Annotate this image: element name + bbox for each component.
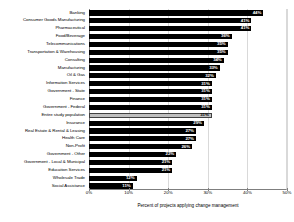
bar-row: 35% [89,42,286,47]
bar-value-label: 31% [201,82,212,86]
bar-row: 22% [89,152,286,157]
category-label: Pharmaceutical [55,26,85,30]
bar-value-label: 27% [185,137,196,141]
bar-value-label: 33% [209,66,220,70]
bar[interactable]: 33% [89,65,220,70]
x-tick-label: 30% [203,191,212,195]
category-label: Social Assistance [52,184,85,188]
category-label: Government - Local & Municipal [24,160,85,164]
gridline [287,9,288,189]
bar-row: 27% [89,128,286,133]
bar[interactable]: 32% [89,73,216,78]
bar-value-label: 34% [213,58,224,62]
bar-value-label: 12% [126,176,137,180]
bar-value-label: 31% [201,97,212,101]
bar-value-label: 35% [217,50,228,54]
bar[interactable]: 27% [89,128,196,133]
bar[interactable]: 35% [89,50,228,55]
bar-row: 36% [89,34,286,39]
category-label: Government - State [48,89,85,93]
category-label: Information Services [46,81,85,85]
bar-value-label: 11% [122,184,132,188]
bar[interactable]: 35% [89,42,228,47]
bar-row: 33% [89,65,286,70]
category-label: Insurance [66,121,85,125]
bar[interactable]: 29% [89,121,204,126]
category-label: Non-Profit [66,144,85,148]
bar[interactable]: 31% [89,89,212,94]
bar[interactable]: 41% [89,18,251,23]
category-label: Transportation & Warehousing [27,50,85,54]
bar[interactable]: 26% [89,144,192,149]
bar-highlight[interactable]: 31% [89,113,212,118]
bar-value-label: 31% [201,105,212,109]
bar[interactable]: 12% [89,176,137,181]
bar[interactable]: 34% [89,58,224,63]
x-tick-label: 40% [243,191,252,195]
category-label: Banking [69,11,85,15]
bar-chart: BankingConsumer Goods ManufacturingPharm… [0,0,294,222]
category-label: Finance [70,97,85,101]
category-label: Education Services [48,168,85,172]
bar-row: 32% [89,73,286,78]
category-label: Consulting [65,58,85,62]
x-tick-label: 0% [86,191,92,195]
category-label: Government - Other [47,152,85,156]
bar-value-label: 21% [162,168,173,172]
bar[interactable]: 27% [89,136,196,141]
bar-value-label: 27% [185,129,196,133]
x-axis-title: Percent of projects applying change mana… [89,204,287,209]
bar-series: 44%41%41%36%35%35%34%33%32%31%31%31%31%3… [89,9,286,189]
category-label: Food/Beverage [56,34,85,38]
bar-row: 44% [89,10,286,15]
category-label: Real Estate & Rental & Leasing [25,129,85,133]
bar-value-label: 35% [217,42,228,46]
bar[interactable]: 36% [89,34,232,39]
bar-row: 35% [89,50,286,55]
bar-value-label: 41% [241,19,252,23]
category-label: Government - Federal [43,105,85,109]
bar-row: 34% [89,58,286,63]
bar-row: 21% [89,168,286,173]
bar[interactable]: 31% [89,97,212,102]
category-label: Consumer Goods Manufacturing [23,18,85,22]
bar-value-label: 31% [200,113,211,117]
bar-value-label: 22% [166,152,177,156]
bar-value-label: 29% [193,121,204,125]
bar-value-label: 26% [181,145,192,149]
plot-area: 44%41%41%36%35%35%34%33%32%31%31%31%31%3… [89,9,287,190]
bar-row: 31% [89,105,286,110]
bar[interactable]: 22% [89,152,176,157]
x-tick-label: 20% [164,191,173,195]
category-label: Oil & Gas [67,73,85,77]
x-tick-label: 10% [124,191,133,195]
category-label: Telecommunications [46,42,85,46]
bar-row: 31% [89,113,286,118]
bar-value-label: 36% [221,34,232,38]
x-axis-ticks: 0%10%20%30%40%50% [89,191,287,200]
bar-value-label: 41% [241,26,252,30]
bar-row: 11% [89,183,286,188]
bar-value-label: 32% [205,74,216,78]
category-label: Health Care [62,136,85,140]
bar[interactable]: 44% [89,10,263,15]
bar-row: 29% [89,121,286,126]
category-label: Manufacturing [58,66,85,70]
x-tick-label: 50% [283,191,292,195]
bar[interactable]: 41% [89,26,251,31]
bar[interactable]: 21% [89,168,172,173]
bar-value-label: 21% [162,160,173,164]
bar-row: 12% [89,176,286,181]
bar-value-label: 31% [201,89,212,93]
bar[interactable]: 21% [89,160,172,165]
bar-row: 27% [89,136,286,141]
bar-row: 31% [89,89,286,94]
bar-row: 31% [89,97,286,102]
bar-value-label: 44% [253,11,264,15]
bar[interactable]: 31% [89,105,212,110]
bar-row: 31% [89,81,286,86]
category-label: Wholesale Trade [53,176,85,180]
bar[interactable]: 31% [89,81,212,86]
category-label: Entire study population [41,113,85,117]
bar[interactable]: 11% [89,183,133,188]
